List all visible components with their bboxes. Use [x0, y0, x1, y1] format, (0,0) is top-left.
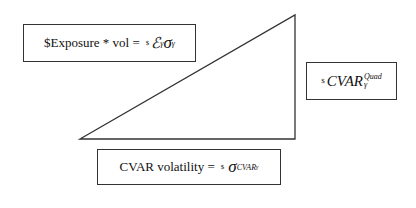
cvar-quad-box: $ CVAR Quad γ — [306, 62, 397, 100]
gamma-subscript: γ — [364, 81, 382, 89]
dollar-superscript: $ — [146, 39, 150, 47]
dollar-superscript: $ — [221, 163, 225, 171]
cvar-subscript: CVAR — [237, 163, 256, 172]
cvar-text: CVAR — [327, 73, 363, 90]
exposure-symbol: ℰ — [151, 34, 160, 52]
gamma-subsubscript: γ — [256, 164, 258, 170]
sigma-symbol: σ — [228, 157, 236, 177]
cvar-scripts: Quad γ — [364, 73, 382, 89]
sigma-symbol: σ — [163, 33, 171, 53]
dollar-superscript: $ — [321, 77, 325, 85]
gamma-subscript: γ — [172, 39, 175, 48]
cvar-volatility-label: CVAR volatility = — [120, 159, 215, 175]
exposure-label: $Exposure * vol = — [44, 35, 140, 51]
cvar-volatility-box: CVAR volatility = $ σCVARγ — [97, 149, 281, 185]
exposure-vol-box: $Exposure * vol = $ ℰγ σγ — [23, 24, 196, 62]
